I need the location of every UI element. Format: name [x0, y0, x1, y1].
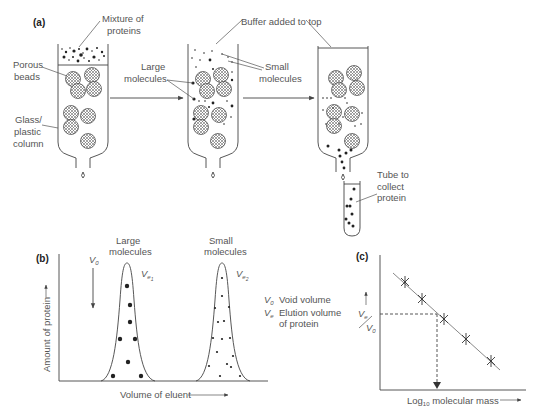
- x-axis-label: Log10 molecular mass: [407, 395, 499, 407]
- porous-beads: [327, 66, 365, 149]
- glass-label-3: column: [13, 138, 44, 149]
- x-axis-label: Volume of eluent: [120, 389, 191, 400]
- glass-label-1: Glass/: [15, 114, 42, 125]
- ylabel-v0: V0: [366, 322, 376, 334]
- panel-b-label: (b): [36, 253, 49, 264]
- ve2-label: Ve2: [236, 268, 249, 282]
- legend-elution-volume: Elution volume: [279, 307, 341, 318]
- peak-1-label-1: Large: [116, 235, 140, 246]
- calibration-points: [401, 276, 495, 367]
- porous-label-1: Porous: [13, 59, 43, 70]
- v0-label: V0: [89, 254, 99, 266]
- ve1-label: Ve1: [141, 268, 154, 282]
- tube-label-2: collect: [377, 181, 404, 192]
- drop-icon: [82, 172, 85, 178]
- glass-label-2: plastic: [14, 126, 41, 137]
- porous-beads: [194, 68, 232, 149]
- protein-mixture-band: [61, 47, 105, 62]
- mixture-label-1: Mixture of: [102, 13, 144, 24]
- large-molecules-label-2: molecules: [124, 73, 167, 84]
- y-axis-label: Amount of protein: [41, 297, 52, 372]
- buffer-label: Buffer added to top: [241, 16, 322, 27]
- panel-a-label: (a): [33, 17, 45, 28]
- tube-label-3: protein: [377, 192, 406, 203]
- collection-tube: [344, 181, 360, 236]
- legend-void-volume: Void volume: [279, 294, 331, 305]
- peak-1-label-2: molecules: [109, 246, 152, 257]
- porous-label-2: beads: [14, 71, 40, 82]
- column-3: [318, 46, 368, 180]
- legend-elution-volume-2: of protein: [279, 318, 319, 329]
- porous-beads: [64, 68, 102, 149]
- column-2: [188, 44, 238, 178]
- panel-a: (a): [13, 13, 409, 236]
- panel-b: (b) Amount of protein Volume of eluent V…: [36, 235, 341, 400]
- small-molecules-label-2: molecules: [259, 73, 302, 84]
- small-molecules-label-1: Small: [265, 61, 289, 72]
- reading-arrow-icon: [433, 382, 441, 389]
- drop-icon: [212, 172, 215, 178]
- large-molecules-label-1: Large: [141, 61, 165, 72]
- panel-c: (c) Ve V0 Log10 molecular mass: [356, 251, 526, 407]
- panel-c-label: (c): [356, 251, 368, 262]
- svg-text:Ve: Ve: [264, 307, 274, 319]
- tube-label-1: Tube to: [377, 169, 409, 180]
- peak-2-label-2: molecules: [204, 246, 247, 257]
- peak-2-label-1: Small: [209, 235, 233, 246]
- svg-text:V0: V0: [264, 294, 274, 306]
- gel-filtration-diagram: (a): [0, 0, 541, 413]
- legend: V0 Void volume Ve Elution volume of prot…: [264, 294, 341, 329]
- drop-icon: [342, 174, 345, 180]
- column-1: [58, 44, 108, 178]
- peak-small-molecules: [196, 263, 250, 381]
- peak-1-dots: [111, 284, 143, 378]
- ylabel-ve: Ve: [358, 308, 368, 320]
- mixture-label-2: proteins: [107, 25, 141, 36]
